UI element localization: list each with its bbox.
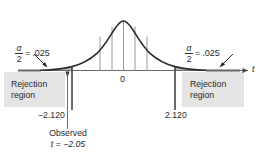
- observed-statistic-label: Observed t = −2.05: [36, 128, 100, 151]
- right-alpha-label: α 2 = .025: [185, 44, 220, 63]
- left-critical-value-label: −2.120: [38, 111, 65, 120]
- right-rejection-region-line1: Rejection: [190, 79, 226, 90]
- left-alpha-numerator: α: [17, 44, 22, 53]
- axis-label-t: t: [252, 65, 255, 74]
- observed-statistic-line1: Observed: [36, 128, 100, 139]
- left-rejection-region-label: Rejection region: [11, 79, 47, 101]
- observed-statistic-line2: t = −2.05: [36, 139, 100, 150]
- right-critical-value-label: 2.120: [165, 111, 187, 120]
- left-alpha-fraction: α 2: [15, 44, 23, 63]
- right-alpha-fraction: α 2: [185, 44, 193, 63]
- left-alpha-label: α 2 = .025: [15, 44, 50, 63]
- right-alpha-denominator: 2: [187, 55, 192, 64]
- right-alpha-numerator: α: [187, 44, 192, 53]
- axis-arrowhead-icon: [243, 68, 249, 73]
- right-rejection-region-line2: region: [190, 90, 226, 101]
- left-alpha-equals: =: [25, 49, 30, 58]
- left-alpha-denominator: 2: [17, 55, 22, 64]
- center-tick-label: 0: [120, 75, 125, 84]
- left-rejection-region-line1: Rejection: [11, 79, 47, 90]
- right-alpha-value: .025: [202, 49, 220, 58]
- t-distribution-figure: α 2 = .025 α 2 = .025 Rejection region R…: [0, 0, 268, 157]
- left-rejection-region-line2: region: [11, 90, 47, 101]
- right-alpha-equals: =: [195, 49, 200, 58]
- right-rejection-region-label: Rejection region: [190, 79, 226, 101]
- left-alpha-value: .025: [32, 49, 50, 58]
